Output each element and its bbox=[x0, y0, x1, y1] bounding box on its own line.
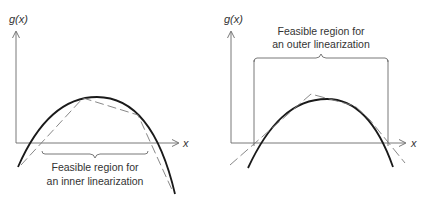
left-caption-line1: Feasible region for bbox=[52, 161, 139, 173]
left-feasible-region-brace bbox=[42, 151, 148, 158]
left-y-axis-label: g(x) bbox=[9, 13, 28, 25]
left-panel-inner-linearization: g(x) x Feasible region for an inner line… bbox=[9, 13, 189, 194]
right-outer-linearization-tangents bbox=[230, 94, 405, 165]
right-x-axis-label: x bbox=[410, 137, 417, 149]
right-panel-outer-linearization: g(x) x Feasible region for an outer line… bbox=[224, 13, 417, 168]
right-y-axis-label: g(x) bbox=[224, 13, 243, 25]
right-feasible-region-brace bbox=[254, 54, 388, 62]
linearization-diagram: g(x) x Feasible region for an inner line… bbox=[0, 0, 424, 204]
left-caption-line2: an inner linearization bbox=[47, 175, 144, 187]
right-caption-line1: Feasible region for bbox=[278, 25, 365, 37]
right-caption-line2: an outer linearization bbox=[272, 38, 370, 50]
left-x-axis-label: x bbox=[182, 137, 189, 149]
right-function-curve bbox=[248, 99, 393, 168]
